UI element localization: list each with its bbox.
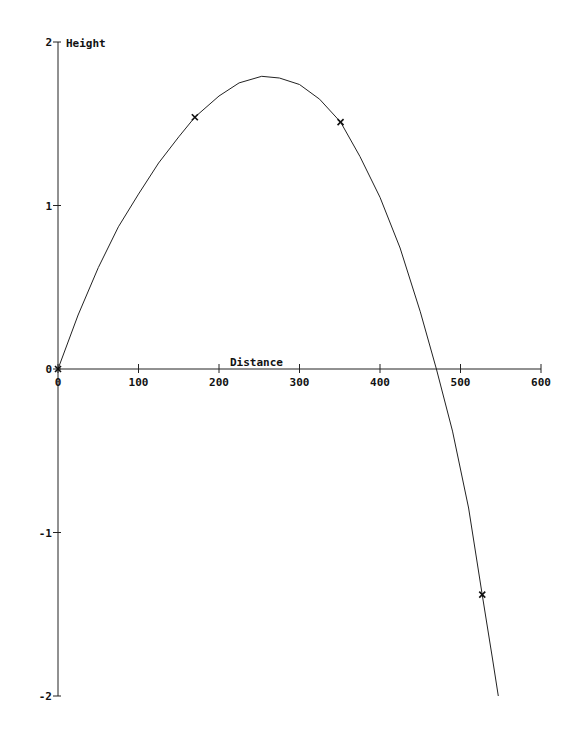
x-marker: [338, 119, 344, 125]
y-tick-label: -2: [39, 690, 52, 703]
x-tick-label: 200: [209, 376, 229, 389]
y-tick-label: 1: [45, 200, 52, 213]
x-tick-label: 500: [451, 376, 471, 389]
x-tick-label: 0: [55, 376, 62, 389]
trajectory-line: [58, 76, 498, 696]
y-tick-label: -1: [39, 527, 53, 540]
y-tick-label: 0: [45, 363, 52, 376]
chart: 0100200300400500600-2-1012 Distance Heig…: [0, 0, 577, 741]
x-tick-label: 600: [531, 376, 551, 389]
x-marker: [192, 114, 198, 120]
y-axis-label: Height: [66, 37, 106, 50]
x-tick-label: 400: [370, 376, 390, 389]
y-tick-label: 2: [45, 36, 52, 49]
x-tick-label: 300: [290, 376, 310, 389]
x-tick-label: 100: [129, 376, 149, 389]
x-axis-label: Distance: [230, 356, 283, 369]
